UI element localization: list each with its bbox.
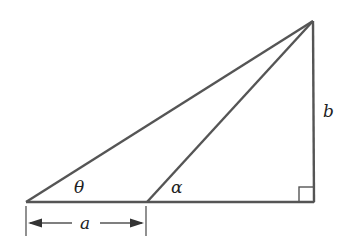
- label-a: a: [80, 213, 90, 233]
- arrow-left-icon: [28, 219, 42, 228]
- label-theta: θ: [74, 177, 84, 197]
- vertical-side-b: [313, 21, 314, 202]
- arrow-right-icon: [130, 219, 144, 228]
- triangle-diagram: θ α a b: [0, 0, 348, 244]
- outer-hypotenuse: [26, 21, 313, 202]
- label-alpha: α: [171, 177, 183, 197]
- label-b: b: [323, 101, 334, 121]
- right-angle-marker: [299, 187, 314, 202]
- inner-hypotenuse: [147, 21, 313, 202]
